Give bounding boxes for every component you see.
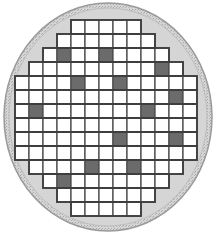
die-cell-good	[71, 34, 85, 48]
die-cell-good	[85, 90, 99, 104]
die-cell-good	[113, 34, 127, 48]
die-cell-good	[141, 118, 155, 132]
die-cell-good	[127, 202, 141, 216]
die-cell-good	[183, 132, 197, 146]
die-cell-good	[29, 160, 43, 174]
die-cell-good	[43, 160, 57, 174]
die-cell-good	[155, 146, 169, 160]
die-cell-good	[113, 62, 127, 76]
wafer-map-figure	[0, 0, 216, 234]
die-cell-good	[85, 20, 99, 34]
die-cell-good	[169, 62, 183, 76]
die-cell-good	[15, 118, 29, 132]
die-cell-good	[43, 48, 57, 62]
die-cell-good	[99, 90, 113, 104]
die-cell-good	[43, 76, 57, 90]
die-cell-good	[183, 146, 197, 160]
die-cell-good	[183, 76, 197, 90]
die-cell-good	[113, 90, 127, 104]
die-cell-good	[57, 76, 71, 90]
die-cell-good	[71, 174, 85, 188]
die-cell-good	[43, 174, 57, 188]
die-cell-good	[99, 132, 113, 146]
die-cell-good	[99, 188, 113, 202]
die-cell-good	[127, 146, 141, 160]
die-cell-good	[127, 34, 141, 48]
die-cell-good	[141, 160, 155, 174]
die-cell-good	[71, 146, 85, 160]
die-cell-good	[57, 188, 71, 202]
die-cell-good	[71, 104, 85, 118]
die-cell-good	[127, 118, 141, 132]
die-cell-good	[43, 146, 57, 160]
die-cell-good	[127, 90, 141, 104]
die-cell-good	[85, 132, 99, 146]
die-cell-good	[29, 132, 43, 146]
die-cell-defective	[113, 76, 127, 90]
die-cell-good	[99, 146, 113, 160]
die-cell-good	[169, 160, 183, 174]
die-cell-good	[85, 48, 99, 62]
die-cell-good	[85, 62, 99, 76]
die-cell-good	[155, 160, 169, 174]
die-cell-good	[141, 174, 155, 188]
die-cell-good	[29, 118, 43, 132]
die-cell-good	[127, 20, 141, 34]
die-cell-good	[113, 146, 127, 160]
die-cell-good	[169, 118, 183, 132]
die-cell-good	[155, 174, 169, 188]
die-cell-good	[99, 62, 113, 76]
die-cell-good	[127, 132, 141, 146]
die-cell-good	[141, 90, 155, 104]
die-cell-good	[141, 132, 155, 146]
die-cell-good	[127, 48, 141, 62]
die-cell-good	[15, 146, 29, 160]
die-cell-good	[57, 146, 71, 160]
die-cell-good	[141, 188, 155, 202]
die-cell-good	[85, 34, 99, 48]
die-cell-defective	[169, 132, 183, 146]
die-cell-good	[85, 118, 99, 132]
die-cell-good	[29, 62, 43, 76]
die-cell-good	[99, 104, 113, 118]
die-cell-good	[57, 160, 71, 174]
die-cell-good	[155, 76, 169, 90]
die-cell-good	[127, 104, 141, 118]
wafer-map-canvas	[0, 0, 216, 234]
die-cell-good	[15, 90, 29, 104]
die-cell-good	[43, 62, 57, 76]
die-cell-good	[43, 90, 57, 104]
die-cell-good	[15, 104, 29, 118]
die-cell-good	[57, 34, 71, 48]
die-cell-good	[183, 104, 197, 118]
die-cell-good	[71, 160, 85, 174]
die-cell-good	[141, 34, 155, 48]
die-cell-good	[43, 118, 57, 132]
die-cell-good	[127, 62, 141, 76]
die-cell-good	[29, 146, 43, 160]
die-cell-good	[155, 104, 169, 118]
die-cell-good	[29, 90, 43, 104]
die-cell-good	[85, 202, 99, 216]
die-cell-defective	[57, 174, 71, 188]
die-cell-good	[85, 104, 99, 118]
die-cell-good	[127, 188, 141, 202]
die-cell-defective	[127, 160, 141, 174]
die-cell-good	[155, 90, 169, 104]
die-cell-good	[85, 188, 99, 202]
die-cell-good	[141, 62, 155, 76]
die-cell-good	[169, 146, 183, 160]
die-cell-good	[71, 202, 85, 216]
die-cell-good	[169, 76, 183, 90]
die-cell-good	[71, 118, 85, 132]
die-cell-good	[155, 118, 169, 132]
die-cell-good	[183, 90, 197, 104]
die-cell-good	[183, 118, 197, 132]
die-cell-good	[113, 20, 127, 34]
die-cell-good	[113, 48, 127, 62]
die-cell-good	[113, 104, 127, 118]
die-cell-defective	[57, 48, 71, 62]
die-cell-good	[141, 146, 155, 160]
die-cell-defective	[99, 48, 113, 62]
die-cell-good	[57, 132, 71, 146]
